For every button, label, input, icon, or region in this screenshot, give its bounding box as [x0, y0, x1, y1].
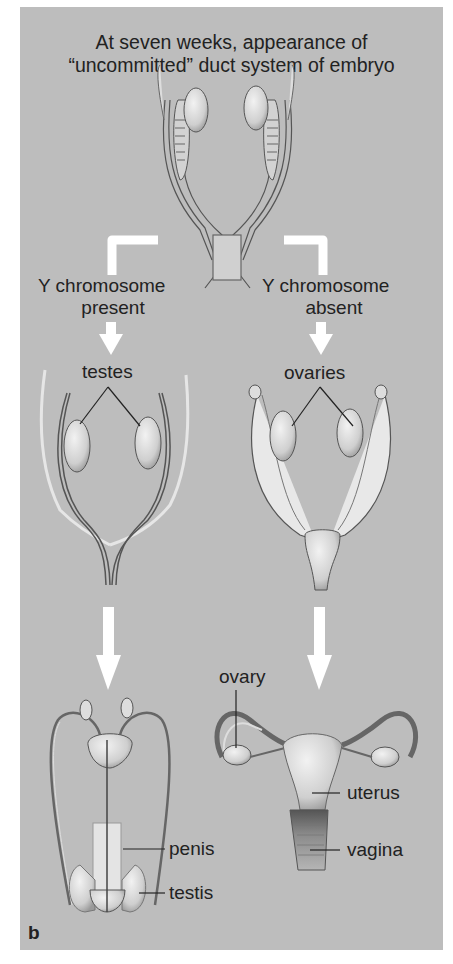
- arrow-left-branch: [112, 240, 158, 275]
- label-penis: penis: [169, 838, 214, 860]
- embryo-gonads: [158, 65, 294, 180]
- male-adult-illustration: [51, 698, 170, 912]
- left-condition-line-2: present: [38, 297, 188, 319]
- testes-stage-illustration: [41, 370, 187, 585]
- left-condition-line-1: Y chromosome: [38, 275, 165, 297]
- short-arrows: [99, 322, 333, 355]
- label-uterus: uterus: [347, 782, 400, 804]
- label-vagina: vagina: [347, 839, 403, 861]
- ovaries-stage-illustration: [249, 385, 390, 590]
- diagram-illustration: [0, 0, 453, 964]
- panel-letter: b: [28, 922, 40, 944]
- label-testis: testis: [169, 882, 213, 904]
- long-arrows: [96, 607, 332, 690]
- arrow-right-branch: [284, 240, 323, 275]
- label-ovaries: ovaries: [284, 362, 345, 384]
- label-testes: testes: [82, 361, 133, 383]
- right-condition-line-2: absent: [262, 297, 406, 319]
- label-ovary: ovary: [219, 666, 265, 688]
- right-condition-line-1: Y chromosome: [262, 275, 389, 297]
